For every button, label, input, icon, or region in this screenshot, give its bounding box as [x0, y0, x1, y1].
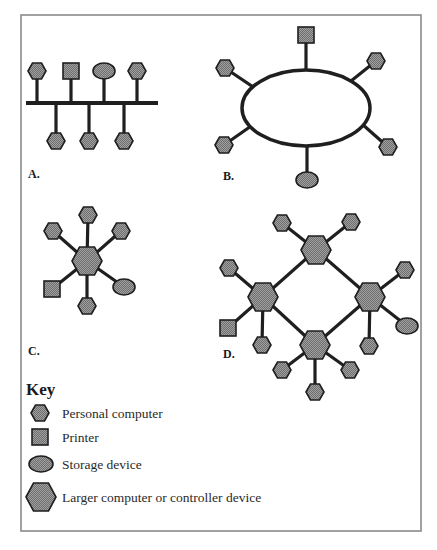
- ellipse-icon: [29, 456, 53, 472]
- printer-icon: [63, 63, 79, 79]
- printer-icon: [44, 281, 60, 297]
- diagram-label-c: C.: [28, 344, 40, 358]
- printer-icon: [298, 27, 314, 43]
- diagram-b-ring: B.: [215, 27, 397, 188]
- diagram-label-d: D.: [223, 347, 235, 361]
- legend-item-label: Storage device: [62, 457, 142, 472]
- personal-computer-icon: [215, 137, 233, 153]
- ring-network: [242, 70, 370, 146]
- legend-item-label: Personal computer: [62, 406, 163, 421]
- square-icon: [32, 429, 48, 445]
- personal-computer-icon: [342, 214, 360, 230]
- personal-computer-icon: [112, 223, 130, 239]
- personal-computer-icon: [216, 60, 234, 76]
- diagram-c-star: C.: [28, 207, 135, 358]
- large-hexagon-icon: [26, 483, 56, 511]
- legend: Key Personal computer Printer Storage de…: [26, 380, 261, 511]
- diagram-a-bus: A.: [26, 63, 158, 181]
- personal-computer-icon: [220, 260, 238, 276]
- legend-item-label: Larger computer or controller device: [62, 490, 261, 505]
- printer-icon: [220, 320, 236, 336]
- diagram-label-b: B.: [223, 169, 234, 183]
- personal-computer-icon: [273, 215, 291, 231]
- storage-device-icon: [113, 279, 135, 295]
- personal-computer-icon: [47, 133, 65, 149]
- legend-title: Key: [26, 380, 56, 399]
- personal-computer-icon: [44, 223, 62, 239]
- personal-computer-icon: [367, 53, 385, 69]
- personal-computer-icon: [360, 338, 378, 354]
- personal-computer-icon: [28, 63, 46, 79]
- controller-device-icon: [301, 236, 331, 264]
- controller-device-icon: [355, 283, 385, 311]
- personal-computer-icon: [78, 298, 96, 314]
- diagram-label-a: A.: [28, 167, 40, 181]
- personal-computer-icon: [273, 362, 291, 378]
- personal-computer-icon: [79, 207, 97, 223]
- storage-device-icon: [296, 172, 318, 188]
- personal-computer-icon: [379, 139, 397, 155]
- small-hexagon-icon: [31, 405, 49, 421]
- personal-computer-icon: [128, 63, 146, 79]
- network-topologies-figure: A. B. C.: [0, 0, 437, 550]
- personal-computer-icon: [115, 133, 133, 149]
- personal-computer-icon: [341, 362, 359, 378]
- diagram-d-mesh: D.: [220, 214, 418, 400]
- personal-computer-icon: [396, 262, 414, 278]
- legend-item-label: Printer: [62, 430, 99, 445]
- storage-device-icon: [93, 63, 115, 79]
- personal-computer-icon: [80, 133, 98, 149]
- controller-device-icon: [248, 283, 278, 311]
- personal-computer-icon: [306, 384, 324, 400]
- personal-computer-icon: [253, 337, 271, 353]
- controller-device-icon: [300, 331, 330, 359]
- controller-device-icon: [72, 247, 102, 275]
- storage-device-icon: [396, 318, 418, 334]
